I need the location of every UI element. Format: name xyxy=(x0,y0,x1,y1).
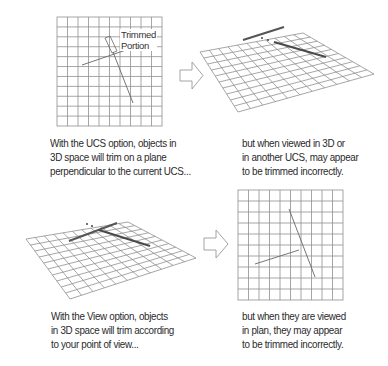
caption-view-plan: but when they are viewed in plan, they m… xyxy=(242,309,346,351)
trimmed-label-line2: Portion xyxy=(121,40,156,51)
caption-line: to be trimmed incorrectly. xyxy=(242,337,346,351)
caption-ucs-3d: but when viewed in 3D or in another UCS,… xyxy=(242,136,358,178)
caption-ucs-plan: With the UCS option, objects in 3D space… xyxy=(50,136,191,178)
caption-line: to your point of view... xyxy=(51,337,174,351)
right-arrow-icon xyxy=(180,62,203,89)
caption-line: but when they are viewed xyxy=(242,309,346,323)
caption-line: but when viewed in 3D or xyxy=(242,136,358,150)
caption-line: With the View option, objects xyxy=(51,309,174,323)
trimmed-portion-box xyxy=(105,36,117,53)
caption-view-3d: With the View option, objects in 3D spac… xyxy=(51,309,174,351)
caption-line: in 3D space will trim according xyxy=(51,323,174,337)
trimmed-portion-label: Trimmed Portion xyxy=(120,29,157,51)
caption-line: in another UCS, may appear xyxy=(242,150,358,164)
caption-line: to be trimmed incorrectly. xyxy=(242,164,358,178)
plan-grid-view xyxy=(238,190,343,300)
right-arrow-icon xyxy=(204,230,228,258)
caption-line: perpendicular to the current UCS... xyxy=(50,164,191,178)
caption-line: in plan, they may appear xyxy=(242,323,346,337)
caption-line: 3D space will trim on a plane xyxy=(50,150,191,164)
caption-line: With the UCS option, objects in xyxy=(50,136,191,150)
trimmed-label-line1: Trimmed xyxy=(121,29,156,40)
